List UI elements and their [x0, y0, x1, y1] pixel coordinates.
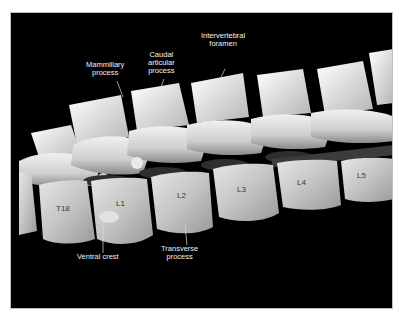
vertebra-label-l3: L3 — [237, 186, 246, 194]
vertebra-label-l5: L5 — [357, 172, 366, 180]
vertebral-column-render — [11, 13, 393, 309]
label-mammillary-process: Mammillary process — [86, 61, 124, 77]
ct-spine-figure: Mammillary process Caudal articular proc… — [10, 12, 393, 309]
vertebra-label-t18: T18 — [56, 205, 70, 213]
vertebra-label-l2: L2 — [177, 192, 186, 200]
vertebra-label-l1: L1 — [116, 200, 125, 208]
vertebra-label-l4: L4 — [297, 179, 306, 187]
label-caudal-articular-process: Caudal articular process — [148, 51, 175, 75]
label-intervertebral-foramen: Intervertebral foramen — [201, 32, 245, 48]
label-ventral-crest: Ventral crest — [77, 253, 119, 261]
label-transverse-process: Transverse process — [161, 245, 198, 261]
